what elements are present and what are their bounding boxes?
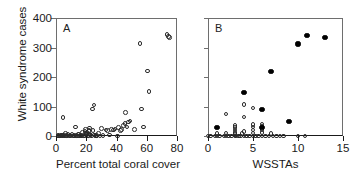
data-point <box>214 125 219 130</box>
data-point <box>132 127 137 132</box>
panel-a: A 0100200300400 020406080 <box>56 18 177 136</box>
x-axis-tick <box>298 136 299 141</box>
data-point <box>61 115 66 120</box>
data-point <box>125 125 130 130</box>
x-axis-tick <box>177 136 178 141</box>
data-point <box>241 90 246 95</box>
panel-a-plot-area <box>56 18 177 136</box>
x-axis-tick <box>117 136 118 141</box>
data-point <box>242 129 247 134</box>
y-axis-label: White syndrome cases <box>16 0 28 134</box>
x-axis-tick-label: 5 <box>250 142 256 154</box>
data-point <box>304 33 309 38</box>
data-point <box>286 119 291 124</box>
data-point <box>145 69 150 74</box>
data-point <box>295 41 300 46</box>
data-point <box>141 125 146 130</box>
x-axis-tick <box>147 136 148 141</box>
data-point <box>259 125 264 130</box>
panel-b: B 051015 <box>208 18 343 136</box>
y-axis-tick <box>204 77 208 78</box>
data-point <box>123 110 128 115</box>
data-point <box>90 107 95 112</box>
y-axis-tick <box>204 48 208 49</box>
panel-b-plot-area <box>208 18 343 136</box>
data-point <box>101 133 106 138</box>
data-point <box>251 106 256 111</box>
y-axis-tick-label: 100 <box>33 101 52 113</box>
x-axis-tick-label: 20 <box>80 142 93 154</box>
x-axis-tick-label: 40 <box>110 142 123 154</box>
data-point <box>138 41 143 46</box>
data-point <box>259 107 264 112</box>
panel-b-x-axis-label: WSSTAs <box>208 158 343 170</box>
data-point <box>268 69 273 74</box>
x-axis-tick <box>56 136 57 141</box>
figure-scatter-white-syndrome: White syndrome cases A 0100200300400 020… <box>0 0 353 186</box>
data-point <box>233 123 238 128</box>
x-axis-tick-label: 15 <box>337 142 350 154</box>
data-point <box>128 119 133 124</box>
y-axis-tick-label: 0 <box>46 130 52 142</box>
data-point <box>147 89 152 94</box>
x-axis-tick-label: 80 <box>171 142 184 154</box>
x-axis-tick <box>343 136 344 141</box>
data-point <box>281 134 286 139</box>
data-point <box>107 133 112 138</box>
data-point <box>322 35 327 40</box>
x-axis-tick-label: 0 <box>53 142 59 154</box>
data-point <box>303 134 308 139</box>
y-axis-tick-label: 200 <box>33 71 52 83</box>
panel-a-x-axis-label: Percent total coral cover <box>56 158 177 170</box>
data-point <box>92 103 97 108</box>
data-point <box>167 35 172 40</box>
y-axis-tick <box>204 107 208 108</box>
data-point <box>242 102 247 107</box>
data-point <box>73 125 78 130</box>
y-axis-tick-label: 400 <box>33 12 52 24</box>
data-point <box>242 115 247 120</box>
x-axis-tick-label: 0 <box>205 142 211 154</box>
x-axis-tick <box>86 136 87 141</box>
x-axis-tick <box>253 136 254 141</box>
x-axis-tick <box>208 136 209 141</box>
x-axis-tick-label: 10 <box>292 142 305 154</box>
data-point <box>224 112 229 117</box>
x-axis-tick-label: 60 <box>140 142 153 154</box>
data-point <box>139 107 144 112</box>
data-point <box>99 126 104 131</box>
y-axis-tick-label: 300 <box>33 42 52 54</box>
y-axis-tick <box>204 18 208 19</box>
